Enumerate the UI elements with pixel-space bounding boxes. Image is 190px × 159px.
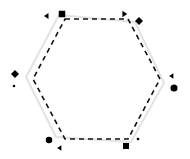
marker-bottom-right-vertex (123, 143, 129, 149)
marker-bottom-left-vertex (46, 137, 53, 144)
marker-bottom-right-small (137, 138, 140, 141)
figure-canvas (0, 0, 190, 159)
marker-left-lower-small (13, 85, 16, 88)
hexagon-diagram-svg (0, 0, 190, 159)
marker-right-vertex (171, 85, 178, 92)
marker-top-left-vertex (59, 11, 66, 18)
